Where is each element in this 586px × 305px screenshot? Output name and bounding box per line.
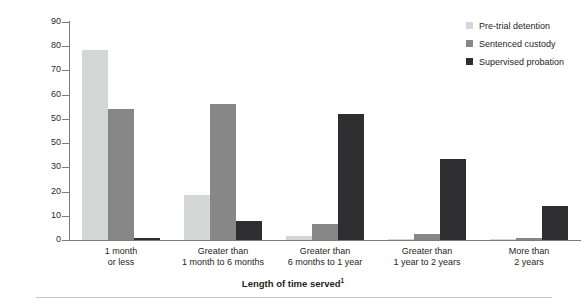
y-axis-tick: 70 (0, 64, 70, 76)
x-axis-category-label-line: 2 years (459, 257, 586, 268)
y-axis-tick-label: 30 (51, 161, 70, 171)
bar-group (82, 22, 160, 240)
y-axis-tick-mark (62, 192, 69, 193)
legend-item: Sentenced custody (466, 36, 564, 51)
bar (108, 109, 134, 240)
y-axis-tick-label: 20 (51, 186, 70, 196)
y-axis-tick-mark (62, 70, 69, 71)
y-axis-tick: 50 (0, 137, 70, 149)
bar (312, 224, 338, 240)
y-axis-tick-mark (62, 167, 69, 168)
legend-swatch (466, 40, 473, 47)
x-axis-title: Length of time served1 (0, 277, 586, 289)
legend-item: Supervised probation (466, 54, 564, 69)
legend-swatch (466, 58, 473, 65)
y-axis-tick: 50 (0, 113, 70, 125)
y-axis-tick-label: 10 (51, 210, 70, 220)
bar (236, 221, 262, 240)
bar-chart-figure: Percent of releases 0102030505060708090 … (0, 0, 586, 305)
legend-item: Pre-trial detention (466, 18, 564, 33)
y-axis-tick: 20 (0, 186, 70, 198)
y-axis-tick-mark (62, 119, 69, 120)
legend-swatch (466, 22, 473, 29)
bar (82, 50, 108, 240)
y-axis-tick-label: 60 (51, 89, 70, 99)
bar (338, 114, 364, 240)
x-axis-line (69, 240, 581, 241)
y-axis-tick: 0 (0, 234, 70, 246)
y-axis-tick: 10 (0, 210, 70, 222)
bar (440, 159, 466, 240)
bar (286, 236, 312, 240)
y-axis-tick-mark (62, 216, 69, 217)
bar (414, 234, 440, 240)
y-axis-tick-label: 70 (51, 64, 70, 74)
y-axis-tick: 60 (0, 89, 70, 101)
y-axis-tick-mark (62, 143, 69, 144)
x-axis-title-text: Length of time served (242, 278, 341, 289)
x-axis-category-label-line: More than (459, 246, 586, 257)
legend-label: Pre-trial detention (479, 21, 550, 31)
y-axis-tick: 80 (0, 40, 70, 52)
bar (516, 238, 542, 240)
y-axis-tick-mark (62, 95, 69, 96)
x-axis-footnote-marker: 1 (341, 277, 345, 284)
bar (134, 238, 160, 240)
bar (490, 239, 516, 240)
legend: Pre-trial detentionSentenced custodySupe… (466, 18, 564, 72)
bottom-separator-rule (36, 297, 552, 298)
x-axis-category-label: More than2 years (459, 246, 586, 268)
y-axis-tick-label: 0 (56, 234, 70, 244)
legend-label: Sentenced custody (479, 39, 556, 49)
y-axis-tick-mark (62, 22, 69, 23)
y-axis-tick-mark (62, 240, 69, 241)
bar-group (388, 22, 466, 240)
y-axis-tick-mark (62, 46, 69, 47)
bar (388, 239, 414, 240)
y-axis-tick-label: 50 (51, 113, 70, 123)
bar-group (184, 22, 262, 240)
bar (542, 206, 568, 240)
bar-group (286, 22, 364, 240)
legend-label: Supervised probation (479, 57, 564, 67)
bar (184, 195, 210, 240)
y-axis-tick: 90 (0, 16, 70, 28)
y-axis-tick: 30 (0, 161, 70, 173)
y-axis-tick-label: 50 (51, 137, 70, 147)
y-axis-tick-label: 90 (51, 16, 70, 26)
bar (210, 104, 236, 240)
y-axis-tick-label: 80 (51, 40, 70, 50)
